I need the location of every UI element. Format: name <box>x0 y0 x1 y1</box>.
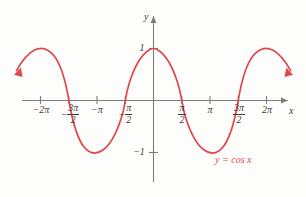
curve-right-arrow-icon <box>285 68 294 77</box>
y-axis-label: y <box>144 12 148 22</box>
plot-canvas <box>0 0 306 197</box>
fraction-minus-3pi-over-2: 3π2 <box>67 103 79 125</box>
fraction-minus-pi-over-2: π2 <box>125 103 132 125</box>
fraction-denominator: 2 <box>125 114 132 126</box>
x-tick-sign-minus-pi-over-2: − <box>119 110 126 120</box>
fraction-denominator: 2 <box>233 114 245 126</box>
x-axis-label: x <box>289 106 293 116</box>
x-axis <box>22 98 288 104</box>
fraction-denominator: 2 <box>178 114 185 126</box>
fraction-numerator: 3π <box>67 103 79 114</box>
y-tick-label-one: 1 <box>136 43 148 53</box>
y-axis-arrow-icon <box>151 16 157 23</box>
fraction-numerator: π <box>178 103 185 114</box>
x-tick-label-minus-3pi-over-2: −3π2 <box>56 104 84 126</box>
cosine-graph-figure: y x 1 −1 −2π −3π2 −π −π2 π2 π 3π2 2π y =… <box>0 0 306 197</box>
fraction-3pi-over-2: 3π2 <box>233 103 245 125</box>
equation-annotation: y = cos x <box>215 155 251 165</box>
x-tick-label-pi-over-2: π2 <box>172 104 192 126</box>
fraction-pi-over-2: π2 <box>178 103 185 125</box>
x-tick-sign-minus-3pi-over-2: − <box>61 110 68 120</box>
x-tick-label-minus-pi-over-2: −π2 <box>113 104 138 126</box>
y-axis <box>151 16 157 182</box>
y-tick-label-minus-one: −1 <box>130 147 148 157</box>
x-tick-label-minus-2pi: −2π <box>28 105 54 115</box>
fraction-denominator: 2 <box>67 114 79 126</box>
x-tick-label-3pi-over-2: 3π2 <box>228 104 250 126</box>
fraction-numerator: π <box>125 103 132 114</box>
x-axis-arrow-icon <box>281 98 288 104</box>
x-tick-label-minus-pi: −π <box>87 105 107 115</box>
curve-left-arrow-icon <box>14 68 23 77</box>
x-tick-label-pi: π <box>204 105 216 115</box>
x-tick-label-2pi: 2π <box>256 105 278 115</box>
fraction-numerator: 3π <box>233 103 245 114</box>
